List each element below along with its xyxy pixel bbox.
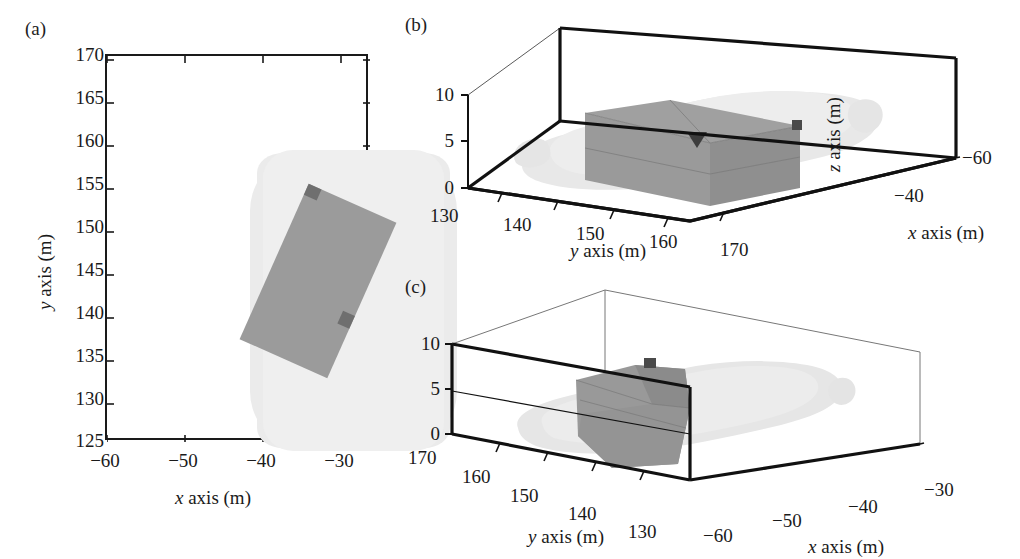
panel-b-ztick-0: 0 <box>416 178 454 197</box>
panel-a-ytick-150: 150 <box>52 217 104 236</box>
panel-b-ztick-5: 5 <box>416 131 454 150</box>
panel-a-plot-area <box>105 54 368 440</box>
panel-b: (b) <box>400 0 1020 270</box>
panel-c-y-axis-title: y axis (m) <box>528 526 604 548</box>
figure-canvas: (a) 170 165 160 155 150 145 140 135 130 … <box>0 0 1020 559</box>
panel-c-ztick-10: 10 <box>402 334 440 353</box>
panel-b-z-axis-title-symbol: z <box>823 165 844 172</box>
panel-b-x-axis-title: x axis (m) <box>908 222 984 244</box>
panel-b-ytick-130: 130 <box>430 206 459 225</box>
panel-a-y-axis-title-text: axis (m) <box>34 234 55 302</box>
panel-c-xtick--60: −60 <box>703 526 733 545</box>
panel-a-ytick-140: 140 <box>52 303 104 322</box>
panel-b-z-axis-title: z axis (m) <box>823 97 845 172</box>
panel-a-xtick--50: −50 <box>153 451 213 470</box>
panel-c-scene <box>400 268 1020 559</box>
panel-c-ztick-0: 0 <box>402 424 440 443</box>
panel-a-ytick-155: 155 <box>52 174 104 193</box>
panel-b-ytick-160: 160 <box>649 232 678 251</box>
panel-a-ytick-125: 125 <box>52 431 104 450</box>
panel-a-ytick-170: 170 <box>52 45 104 64</box>
panel-a-y-axis-title: y axis (m) <box>34 234 56 310</box>
panel-b-z-axis-title-text: axis (m) <box>823 97 844 165</box>
panel-a-y-axis-title-symbol: y <box>34 302 55 310</box>
panel-c-ytick-130: 130 <box>628 522 657 541</box>
panel-c-ztick-5: 5 <box>402 379 440 398</box>
panel-c-ytick-170: 170 <box>408 448 437 467</box>
panel-c-ytick-150: 150 <box>510 486 539 505</box>
panel-b-ytick-170: 170 <box>720 240 749 259</box>
panel-c-xtick--50: −50 <box>772 511 802 530</box>
panel-b-y-axis-title: y axis (m) <box>570 240 646 262</box>
panel-c-x-axis-title: x axis (m) <box>808 536 884 558</box>
panel-a-xtick--40: −40 <box>231 451 291 470</box>
panel-c-xtick--30: −30 <box>924 480 954 499</box>
panel-c-ytick-140: 140 <box>568 504 597 523</box>
panel-a-label: (a) <box>25 18 46 40</box>
panel-b-xtick--40: −40 <box>894 186 924 205</box>
panel-a-x-axis-title-text: axis (m) <box>183 487 251 508</box>
panel-a-ytick-160: 160 <box>52 131 104 150</box>
panel-a-x-axis-title: x axis (m) <box>175 487 251 509</box>
panel-b-ytick-140: 140 <box>503 215 532 234</box>
panel-a-ytick-135: 135 <box>52 346 104 365</box>
panel-b-x-axis-title-text: axis (m) <box>916 222 984 243</box>
panel-c-ytick-160: 160 <box>462 467 491 486</box>
panel-a-xtick--30: −30 <box>309 451 369 470</box>
panel-c-xtick--40: −40 <box>848 497 878 516</box>
panel-b-y-axis-title-text: axis (m) <box>578 240 646 261</box>
panel-a-xtick--60: −60 <box>75 451 135 470</box>
panel-c-y-axis-title-text: axis (m) <box>536 526 604 547</box>
panel-a-ytick-130: 130 <box>52 389 104 408</box>
panel-c: (c) <box>400 268 1020 559</box>
panel-a: (a) 170 165 160 155 150 145 140 135 130 … <box>0 0 400 559</box>
panel-b-z-axis <box>461 95 468 188</box>
panel-a-ytick-165: 165 <box>52 88 104 107</box>
panel-b-ztick-10: 10 <box>416 85 454 104</box>
panel-b-xtick--60: −60 <box>962 148 992 167</box>
panel-a-ytick-145: 145 <box>52 260 104 279</box>
panel-c-x-axis-title-text: axis (m) <box>816 536 884 557</box>
